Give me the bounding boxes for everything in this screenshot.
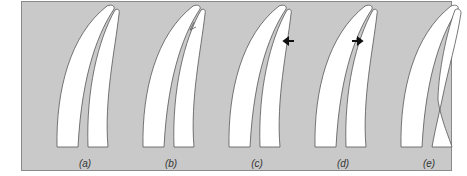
panel-c	[229, 5, 294, 147]
panel-label-e: (e)	[423, 158, 435, 169]
panel-a	[57, 5, 119, 147]
panel-label-c: (c)	[251, 158, 263, 169]
panel-label-a: (a)	[79, 158, 91, 169]
diagram: (a)(b)(c)(d)(e)	[0, 0, 467, 176]
panel-b	[143, 5, 205, 147]
panel-d	[315, 5, 377, 147]
panel-label-b: (b)	[165, 158, 177, 169]
arrow-left-icon	[284, 38, 294, 44]
panel-label-d: (d)	[337, 158, 349, 169]
panel-e	[401, 5, 461, 147]
